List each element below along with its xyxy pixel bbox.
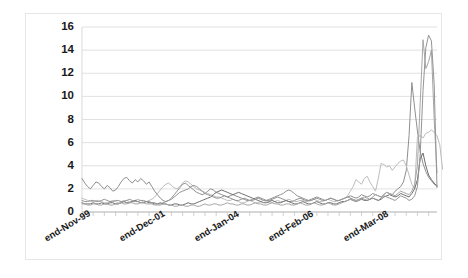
chart-screenshot: 0246810121416 end-Nov-99end-Dec-01end-Ja…	[0, 0, 468, 278]
y-tick-label-14: 14	[48, 44, 74, 55]
line-series-series_1	[82, 83, 437, 202]
y-tick-label-10: 10	[48, 90, 74, 101]
y-tick-label-12: 12	[48, 67, 74, 78]
line-series-series_4	[82, 40, 437, 207]
series-group	[82, 35, 443, 206]
y-tick-label-4: 4	[48, 160, 74, 171]
y-tick-label-6: 6	[48, 137, 74, 148]
y-tick-label-2: 2	[48, 183, 74, 194]
line-series-series_2	[82, 130, 443, 203]
y-tick-label-16: 16	[48, 21, 74, 32]
y-tick-label-8: 8	[48, 114, 74, 125]
y-tick-label-0: 0	[48, 206, 74, 217]
gridlines-group	[82, 27, 437, 212]
